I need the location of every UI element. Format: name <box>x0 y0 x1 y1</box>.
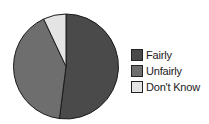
legend-swatch <box>131 49 143 61</box>
legend-label: Unfairly <box>146 65 182 77</box>
pie-chart <box>0 0 130 124</box>
legend-swatch <box>131 81 143 93</box>
legend-item-fairly: Fairly <box>131 47 200 62</box>
pie-slice-fairly <box>59 14 118 119</box>
legend-swatch <box>131 65 143 77</box>
legend: Fairly Unfairly Don't Know <box>131 47 200 95</box>
legend-item-dont-know: Don't Know <box>131 79 200 94</box>
legend-label: Fairly <box>146 49 172 61</box>
legend-label: Don't Know <box>146 81 200 93</box>
legend-item-unfairly: Unfairly <box>131 63 200 78</box>
